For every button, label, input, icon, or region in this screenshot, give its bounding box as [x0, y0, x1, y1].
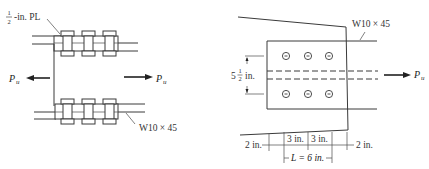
gage-fraction-denominator: 2	[238, 75, 241, 82]
bolt-head	[61, 99, 74, 104]
bolt-head	[82, 99, 95, 104]
plate-leader-line	[47, 19, 60, 34]
gage-unit: in.	[245, 71, 255, 81]
gage-dimension: 5 1 2 in.	[231, 56, 264, 94]
bolt-shank	[63, 104, 72, 119]
bolt-shank	[105, 104, 114, 119]
gusset-top-edge	[238, 17, 346, 27]
load-subscript: u	[16, 78, 20, 86]
left-view: 1 2 -in. PL W10 × 45 P u P u	[6, 9, 177, 133]
bolt-nut	[82, 119, 95, 124]
bolt-shank	[63, 36, 72, 51]
load-right: P u	[124, 73, 167, 86]
member-leader-line	[126, 113, 135, 124]
bolt-shank	[84, 36, 93, 51]
connection-diagram: 1 2 -in. PL W10 × 45 P u P u	[0, 0, 429, 169]
dim-edge-right: 2 in.	[356, 140, 373, 150]
load-right: P u	[384, 69, 425, 82]
load-symbol: P	[413, 69, 420, 80]
bolt-row-top	[282, 52, 332, 59]
member-label: W10 × 45	[352, 19, 390, 40]
dim-arrowhead-icon	[246, 89, 249, 93]
bolt-nut	[103, 119, 116, 124]
gusset-right-edge	[346, 27, 348, 130]
top-flange-assembly	[32, 31, 138, 56]
member-leader-line	[360, 32, 365, 40]
bolt-nut	[61, 51, 74, 56]
arrowhead-left-icon	[26, 75, 34, 81]
dim-edge-left: 2 in.	[245, 140, 262, 150]
member-label-text: W10 × 45	[352, 19, 390, 29]
bolt-head	[61, 31, 74, 36]
arrowhead-right-icon	[403, 72, 411, 78]
bolt-shank	[105, 36, 114, 51]
dim-spacing-2: 3 in.	[311, 134, 328, 144]
dim-spacing-1: 3 in.	[287, 134, 304, 144]
load-subscript: u	[421, 74, 425, 82]
dim-arrowhead-icon	[246, 57, 249, 61]
bottom-bolts	[61, 99, 116, 124]
dim-length: L = 6 in.	[290, 153, 324, 163]
gage-fraction-numerator: 1	[238, 67, 241, 74]
arrowhead-right-icon	[145, 74, 153, 80]
bolt-row-bottom	[282, 90, 332, 97]
bolt-nut	[103, 51, 116, 56]
longitudinal-dimensions: 2 in. 3 in. 3 in. 2 in. L = 6 in.	[245, 132, 373, 163]
fraction-numerator: 1	[7, 9, 10, 16]
member-label: W10 × 45	[126, 113, 177, 133]
member-label-text: W10 × 45	[139, 123, 177, 133]
bolt-head	[103, 31, 116, 36]
load-symbol: P	[155, 73, 162, 84]
bolt-shank	[84, 104, 93, 119]
bolt-nut	[82, 51, 95, 56]
bolt-nut	[61, 119, 74, 124]
load-subscript: u	[163, 78, 167, 86]
top-bolts	[61, 31, 116, 56]
gage-whole: 5	[231, 71, 236, 81]
bottom-flange-assembly	[34, 99, 145, 124]
bolt-head	[103, 99, 116, 104]
plate-label-text: -in. PL	[14, 12, 41, 22]
load-left: P u	[8, 73, 50, 86]
plate-label: 1 2 -in. PL	[6, 9, 60, 34]
right-view: W10 × 45 P u 5 1 2 in.	[231, 17, 425, 163]
fraction-denominator: 2	[7, 18, 10, 25]
load-symbol: P	[8, 73, 15, 84]
bolt-head	[82, 31, 95, 36]
